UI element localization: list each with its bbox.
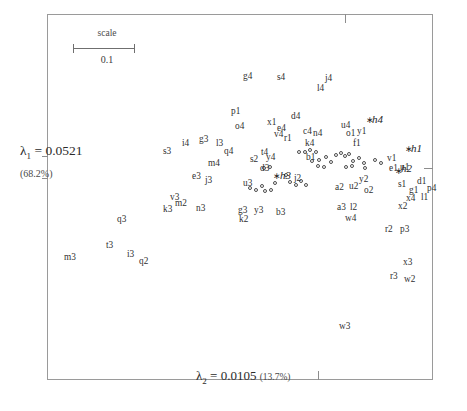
point-label: t3: [106, 241, 113, 250]
supplementary-point-label: h4: [372, 114, 383, 125]
point-label: k4: [305, 139, 314, 148]
axis1-percent: (68.2%): [20, 168, 53, 179]
point-label: s2: [250, 155, 258, 164]
point-label: m4: [208, 159, 220, 168]
point-label: o2: [364, 186, 373, 195]
point-label: k3: [163, 205, 172, 214]
point-label: j2: [294, 174, 301, 183]
axis1-eigenvalue: λ1 = 0.0521: [20, 143, 83, 161]
point-label: u3: [243, 179, 252, 188]
point-label: p1: [231, 107, 240, 116]
point-label: l4: [317, 84, 324, 93]
point-label: l2: [350, 203, 357, 212]
axis2-percent: (13.7%): [260, 372, 291, 382]
point-label: y4: [266, 153, 275, 162]
supplementary-point-label: h3: [280, 170, 291, 181]
point-label: x3: [403, 258, 412, 267]
point-label: q2: [139, 257, 148, 266]
scale-bar-line: [73, 48, 134, 49]
point-label: i3: [127, 250, 134, 259]
point-label: n3: [196, 204, 205, 213]
point-label: r1: [284, 134, 292, 143]
supplementary-point-label: h1: [411, 143, 422, 154]
scale-bar-value: 0.1: [68, 54, 146, 65]
axis1-subscript: 1: [27, 151, 32, 161]
axis1-value: 0.0521: [45, 143, 82, 158]
point-label: w4: [345, 214, 356, 223]
point-label: y3: [254, 206, 263, 215]
supplementary-point-label: h2: [401, 163, 412, 174]
point-label: d3: [260, 164, 269, 173]
point-label: c4: [303, 127, 312, 136]
point-label: p4: [427, 184, 436, 193]
scale-bar-cap-right: [134, 44, 135, 53]
point-label: d4: [291, 112, 300, 121]
point-label: v4: [274, 130, 283, 139]
point-label: g4: [243, 72, 252, 81]
axis-tick-bottom: [318, 371, 319, 380]
point-label: r3: [390, 272, 398, 281]
point-label: j3: [205, 176, 212, 185]
figure-canvas: scale 0.1 λ1 = 0.0521 (68.2%) λ2 = 0.010…: [0, 0, 467, 411]
point-label: i4: [182, 139, 189, 148]
point-label: b1: [306, 153, 315, 162]
point-label: q4: [224, 147, 233, 156]
point-label: v1: [387, 154, 396, 163]
point-label: x4: [406, 194, 415, 203]
point-label: k2: [239, 215, 248, 224]
point-label: j4: [325, 74, 332, 83]
axis-tick-top: [345, 14, 346, 23]
point-label: w3: [339, 322, 350, 331]
scale-bar-label: scale: [68, 28, 146, 38]
point-label: f1: [353, 139, 361, 148]
axis1-equals: =: [34, 143, 42, 158]
scale-bar: scale 0.1: [68, 28, 146, 72]
point-label: s4: [277, 73, 285, 82]
point-label: e3: [192, 172, 201, 181]
point-label: r2: [385, 225, 393, 234]
axis2-subscript: 2: [202, 376, 207, 386]
axis2-equals: =: [210, 368, 217, 383]
point-label: m3: [64, 253, 76, 262]
point-label: n4: [313, 129, 322, 138]
point-label: a2: [335, 183, 344, 192]
point-label: u2: [349, 182, 358, 191]
point-label: l3: [216, 139, 223, 148]
point-label: a3: [337, 203, 346, 212]
point-label: l1: [421, 193, 428, 202]
point-label: b3: [276, 208, 285, 217]
point-label: o1: [346, 129, 355, 138]
point-label: x2: [398, 202, 407, 211]
point-label: y1: [357, 127, 366, 136]
point-label: x1: [267, 118, 276, 127]
point-label: y2: [359, 175, 368, 184]
point-label: m2: [175, 199, 187, 208]
point-label: s1: [398, 180, 406, 189]
axis-tick-right: [424, 168, 433, 169]
point-label: g3: [199, 135, 208, 144]
point-label: d1: [417, 177, 426, 186]
point-label: w2: [404, 275, 415, 284]
point-label: s3: [163, 147, 171, 156]
point-label: q3: [117, 215, 126, 224]
axis2-eigenvalue: λ2 = 0.0105 (13.7%): [196, 368, 291, 386]
point-label: p3: [400, 225, 409, 234]
axis2-value: 0.0105: [221, 368, 257, 383]
point-label: o4: [235, 122, 244, 131]
